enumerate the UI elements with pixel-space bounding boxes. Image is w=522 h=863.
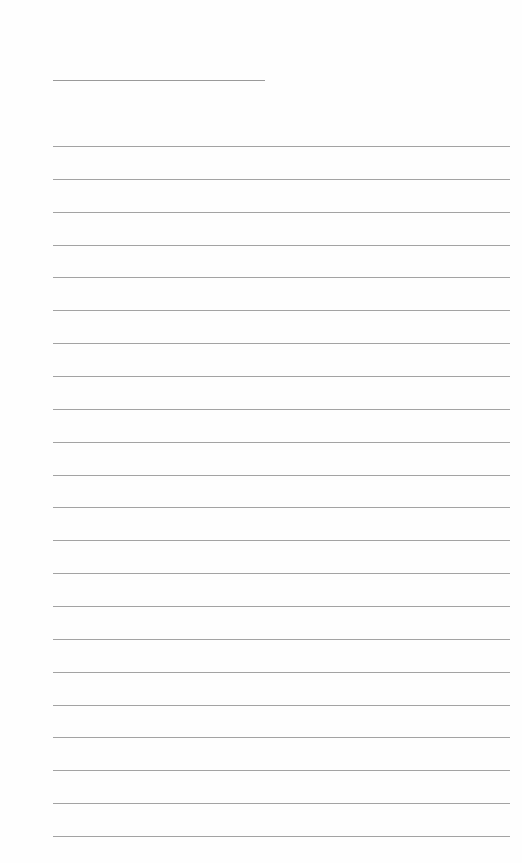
ruled-line: [53, 212, 510, 213]
ruled-line: [53, 277, 510, 278]
ruled-line: [53, 343, 510, 344]
ruled-line: [53, 639, 510, 640]
ruled-line: [53, 540, 510, 541]
lined-paper-page: [0, 0, 522, 863]
ruled-line: [53, 672, 510, 673]
ruled-line: [53, 737, 510, 738]
ruled-line: [53, 573, 510, 574]
ruled-line: [53, 606, 510, 607]
ruled-line: [53, 836, 510, 837]
ruled-line: [53, 146, 510, 147]
title-line: [53, 80, 265, 81]
ruled-line: [53, 803, 510, 804]
ruled-line: [53, 705, 510, 706]
ruled-line: [53, 179, 510, 180]
ruled-line: [53, 770, 510, 771]
ruled-line: [53, 310, 510, 311]
ruled-line: [53, 475, 510, 476]
ruled-line: [53, 442, 510, 443]
ruled-line: [53, 507, 510, 508]
ruled-line: [53, 409, 510, 410]
ruled-line: [53, 245, 510, 246]
ruled-line: [53, 376, 510, 377]
